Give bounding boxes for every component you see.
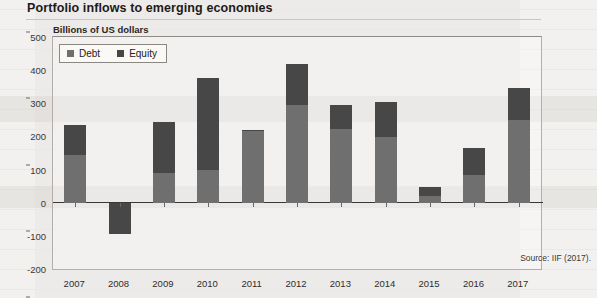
bar-segment-equity-negative <box>109 203 131 234</box>
bar-segment-debt <box>64 155 86 203</box>
x-axis-tick-mark <box>341 203 342 207</box>
x-axis-tick-mark <box>164 203 165 207</box>
legend-label-debt: Debt <box>79 48 100 59</box>
bar-2015[interactable] <box>419 187 441 203</box>
x-axis-tick-mark <box>253 203 254 207</box>
bar-segment-equity <box>375 102 397 137</box>
bar-2014[interactable] <box>375 102 397 202</box>
x-axis-tick-label: 2016 <box>463 278 484 289</box>
x-axis-tick-label: 2017 <box>507 278 528 289</box>
x-axis-tick-label: 2010 <box>197 278 218 289</box>
y-axis-tick-mark <box>26 32 30 33</box>
chart-source: Source: IIF (2017). <box>520 253 591 263</box>
y-axis-tick-label: -100 <box>27 230 46 241</box>
bar-2011[interactable] <box>242 130 264 203</box>
bar-segment-equity <box>330 105 352 129</box>
bar-segment-equity <box>508 88 530 119</box>
x-axis-tick-label: 2012 <box>285 278 306 289</box>
bar-2012[interactable] <box>286 64 308 203</box>
bar-segment-debt <box>242 131 264 202</box>
bar-segment-debt <box>286 105 308 203</box>
bar-2017[interactable] <box>508 88 530 202</box>
bar-2008[interactable] <box>109 203 131 234</box>
y-axis-tick-mark <box>26 297 30 298</box>
bar-2010[interactable] <box>197 78 219 202</box>
bar-segment-debt <box>197 170 219 203</box>
y-axis-tick-label: 100 <box>30 164 46 175</box>
bar-2016[interactable] <box>463 148 485 203</box>
bar-segment-equity <box>64 125 86 155</box>
bar-segment-debt <box>153 173 175 203</box>
chart-plot-area: 5004003002001000-100-200 <box>52 36 542 270</box>
legend-item-debt[interactable]: Debt <box>67 48 100 59</box>
x-axis-tick-label: 2013 <box>330 278 351 289</box>
y-axis-tick-label: -200 <box>27 264 46 275</box>
x-axis-tick-label: 2011 <box>241 278 261 289</box>
x-axis-tick-mark <box>75 203 76 207</box>
bar-segment-debt <box>419 196 441 203</box>
x-axis-tick-label: 2014 <box>374 278 395 289</box>
legend-item-equity[interactable]: Equity <box>117 48 157 59</box>
x-axis-tick-label: 2007 <box>64 278 85 289</box>
x-axis-tick-mark <box>430 203 431 207</box>
bar-2009[interactable] <box>153 122 175 203</box>
x-axis-tick-mark <box>519 203 520 207</box>
x-axis-tick-mark <box>474 203 475 207</box>
bar-segment-debt <box>508 120 530 203</box>
y-axis-tick-label: 400 <box>30 65 46 76</box>
x-axis-tick-mark <box>297 203 298 207</box>
legend-label-equity: Equity <box>129 48 157 59</box>
title-divider <box>26 19 541 20</box>
x-axis-tick-mark <box>208 203 209 207</box>
x-axis-tick-label: 2008 <box>108 278 129 289</box>
chart-subtitle: Billions of US dollars <box>53 24 149 35</box>
x-axis-tick-label: 2009 <box>152 278 173 289</box>
x-axis-tick-label: 2015 <box>419 278 440 289</box>
bar-segment-equity <box>286 64 308 105</box>
legend-swatch-debt <box>67 50 74 57</box>
y-axis-tick-label: 0 <box>41 197 46 208</box>
bar-2013[interactable] <box>330 105 352 203</box>
bar-segment-equity <box>197 78 219 169</box>
bar-segment-equity <box>153 122 175 173</box>
legend-swatch-equity <box>117 50 124 57</box>
chart-legend: Debt Equity <box>59 44 167 63</box>
bar-segment-debt <box>375 137 397 203</box>
x-axis-tick-mark <box>386 203 387 207</box>
y-axis-tick-label: 300 <box>30 98 46 109</box>
bar-segment-debt <box>330 129 352 203</box>
bar-segment-equity <box>463 148 485 175</box>
bar-2007[interactable] <box>64 125 86 203</box>
y-axis-tick-label: 200 <box>30 131 46 142</box>
bar-segment-equity <box>419 187 441 196</box>
chart-title: Portfolio inflows to emerging economies <box>27 1 273 15</box>
y-axis-tick-label: 500 <box>30 32 46 43</box>
bar-segment-debt <box>463 175 485 203</box>
x-axis-tick-mark <box>120 203 121 207</box>
